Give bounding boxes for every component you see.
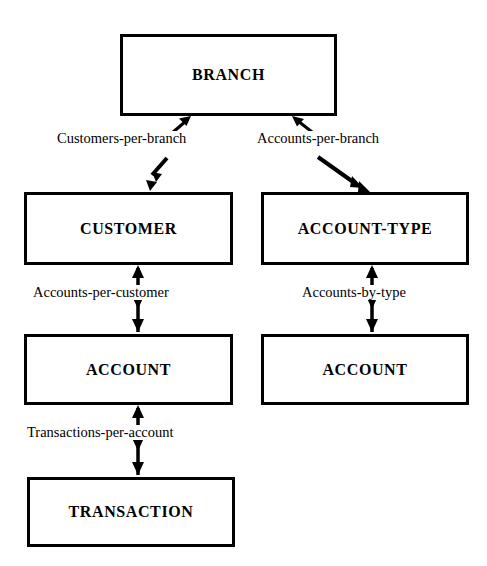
entity-label-account-type: ACCOUNT-TYPE xyxy=(298,221,433,237)
set-label-transactions-per-account: Transactions-per-account xyxy=(25,425,176,440)
entity-box-customer[interactable]: CUSTOMER xyxy=(24,192,233,265)
entity-box-transaction[interactable]: TRANSACTION xyxy=(27,477,235,547)
entity-label-transaction: TRANSACTION xyxy=(69,504,194,520)
set-label-accounts-by-type: Accounts-by-type xyxy=(300,285,408,300)
schema-diagram-canvas: BRANCH CUSTOMER ACCOUNT-TYPE ACCOUNT ACC… xyxy=(0,0,487,566)
set-label-accounts-per-branch: Accounts-per-branch xyxy=(255,131,381,146)
connector-branch-account-type xyxy=(292,116,371,193)
entity-label-account-right: ACCOUNT xyxy=(322,362,407,378)
connector-branch-customer xyxy=(146,116,191,191)
entity-label-account-left: ACCOUNT xyxy=(86,362,171,378)
entity-box-account-left[interactable]: ACCOUNT xyxy=(24,334,233,405)
entity-box-account-right[interactable]: ACCOUNT xyxy=(261,334,469,405)
entity-box-branch[interactable]: BRANCH xyxy=(120,34,337,116)
set-label-accounts-per-customer: Accounts-per-customer xyxy=(31,285,171,300)
entity-box-account-type[interactable]: ACCOUNT-TYPE xyxy=(261,192,469,265)
set-label-customers-per-branch: Customers-per-branch xyxy=(55,131,188,146)
entity-label-branch: BRANCH xyxy=(192,67,265,83)
entity-label-customer: CUSTOMER xyxy=(80,221,177,237)
